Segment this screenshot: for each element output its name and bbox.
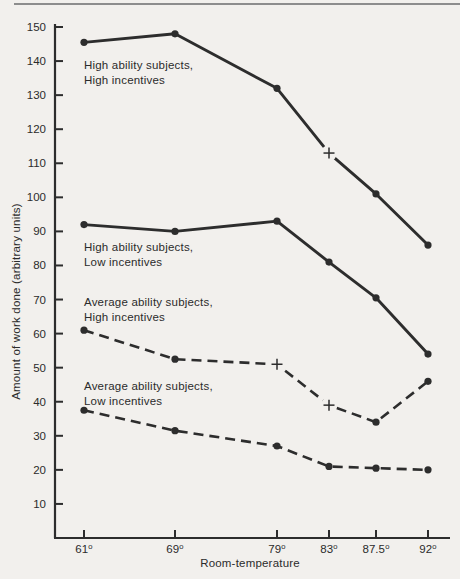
- dot-marker: [171, 356, 178, 363]
- dot-marker: [372, 465, 379, 472]
- y-tick-label: 90: [33, 225, 46, 237]
- x-axis-title: Room-temperature: [150, 556, 350, 571]
- dot-marker: [273, 442, 280, 449]
- work-vs-temperature-chart: 10203040506070809010011012013014015061⁰6…: [0, 0, 460, 579]
- y-tick-label: 30: [33, 430, 46, 442]
- y-tick-label: 150: [27, 21, 46, 33]
- chart-canvas: 10203040506070809010011012013014015061⁰6…: [0, 0, 460, 579]
- dot-marker: [372, 419, 379, 426]
- dot-marker: [424, 350, 431, 357]
- dot-marker: [171, 30, 178, 37]
- series-high-ability-low-incentives: [80, 218, 431, 358]
- dot-marker: [424, 378, 431, 385]
- dot-marker: [171, 427, 178, 434]
- y-tick-label: 20: [33, 464, 46, 476]
- dot-marker: [325, 463, 332, 470]
- dot-marker: [80, 327, 87, 334]
- series-label-line: Average ability subjects,: [84, 379, 213, 394]
- dot-marker: [80, 221, 87, 228]
- series-average-ability-low-incentives: [80, 407, 431, 474]
- series-label-average-ability-high-incentives: Average ability subjects, High incentive…: [84, 295, 213, 325]
- series-label-line: Average ability subjects,: [84, 295, 213, 310]
- y-tick-label: 120: [27, 123, 46, 135]
- y-tick-label: 70: [33, 294, 46, 306]
- x-tick-label: 87.5⁰: [363, 543, 390, 555]
- dot-marker: [325, 258, 332, 265]
- dot-marker: [424, 466, 431, 473]
- y-axis-title: Amount of work done (arbitrary units): [9, 157, 24, 447]
- y-tick-label: 40: [33, 396, 46, 408]
- series-label-line: High ability subjects,: [84, 240, 193, 255]
- y-tick-label: 60: [33, 328, 46, 340]
- x-tick-label: 61⁰: [75, 543, 93, 555]
- dot-marker: [80, 39, 87, 46]
- x-tick-label: 83⁰: [320, 543, 338, 555]
- series-label-average-ability-low-incentives: Average ability subjects, Low incentives: [84, 379, 213, 409]
- dot-marker: [372, 294, 379, 301]
- axes: [54, 24, 450, 538]
- y-tick-label: 130: [27, 89, 46, 101]
- page: 10203040506070809010011012013014015061⁰6…: [0, 0, 460, 579]
- y-tick-label: 50: [33, 362, 46, 374]
- dot-marker: [424, 241, 431, 248]
- x-tick-label: 79⁰: [268, 543, 286, 555]
- dot-marker: [171, 228, 178, 235]
- dot-marker: [273, 85, 280, 92]
- series-label-line: High incentives: [84, 310, 213, 325]
- series-average-ability-high-incentives: [80, 327, 431, 426]
- y-tick-label: 100: [27, 191, 46, 203]
- series-label-line: High incentives: [84, 73, 193, 88]
- series-label-line: Low incentives: [84, 255, 193, 270]
- dot-marker: [273, 218, 280, 225]
- y-tick-label: 10: [33, 498, 46, 510]
- y-tick-label: 140: [27, 55, 46, 67]
- series-label-line: Low incentives: [84, 394, 213, 409]
- x-tick-label: 92⁰: [419, 543, 437, 555]
- x-axis-ticks: 61⁰69⁰79⁰83⁰87.5⁰92⁰: [75, 530, 437, 555]
- y-tick-label: 110: [28, 157, 46, 169]
- series-label-line: High ability subjects,: [84, 58, 193, 73]
- series-label-high-ability-high-incentives: High ability subjects, High incentives: [84, 58, 193, 88]
- dot-marker: [372, 190, 379, 197]
- x-tick-label: 69⁰: [166, 543, 184, 555]
- y-tick-label: 80: [33, 259, 46, 271]
- series-label-high-ability-low-incentives: High ability subjects, Low incentives: [84, 240, 193, 270]
- y-axis-ticks: 102030405060708090100110120130140150: [27, 21, 63, 510]
